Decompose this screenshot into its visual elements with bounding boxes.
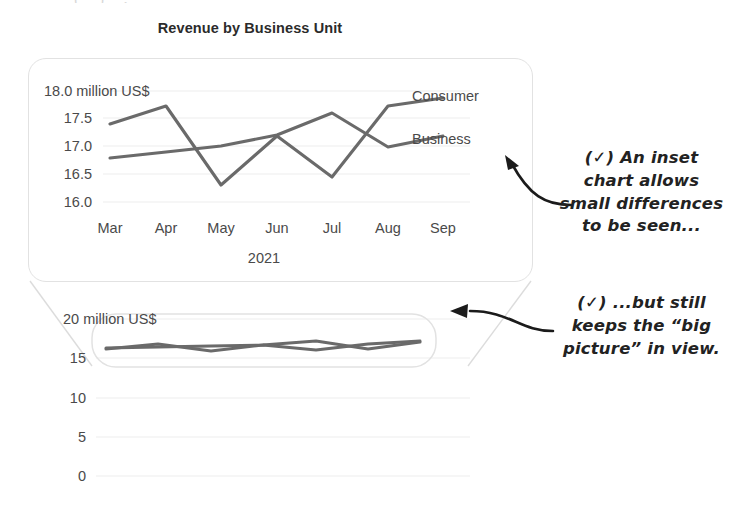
overview-y-unit-text: million US$ [83,311,156,327]
inset-xtick-mar: Mar [87,220,133,236]
overview-ytick-10: 10 [18,390,86,406]
overview-ytick-5: 5 [18,429,86,445]
figure-canvas: · · · ( ) , Revenue by Business Unit [0,0,749,519]
annotation-arrow-2-head [450,304,468,318]
annotation-2-line-1: (✓) ...but still [534,292,749,315]
inset-xtick-apr: Apr [143,220,189,236]
inset-ytick-17-0: 17.0 [20,138,92,154]
annotation-1-line-4: to be seen... [534,215,749,238]
inset-xtick-jun: Jun [254,220,300,236]
overview-ytick-15: 15 [18,350,86,366]
overview-ytick-0: 0 [18,468,86,484]
overview-ytick-20: 20 [63,311,83,327]
inset-series-consumer [110,98,443,185]
annotation-1-line-1: (✓) An inset [534,147,749,170]
annotation-1-line-3: small differences [534,193,749,216]
inset-ytick-16-0: 16.0 [20,194,92,210]
inset-y-unit-text: million US$ [76,83,149,99]
inset-ytick-16-5: 16.5 [20,166,92,182]
inset-x-axis-title: 2021 [204,250,324,266]
inset-xtick-jul: Jul [309,220,355,236]
chart-vector-layer [0,0,749,519]
inset-ytick-17-5: 17.5 [20,110,92,126]
annotation-2-line-2: keeps the “big [534,315,749,338]
annotation-1-line-2: chart allows [534,170,749,193]
annotation-arrow-1-head [505,155,519,170]
inset-y-unit-label: 18.0 million US$ [44,83,150,99]
inset-series-business [110,113,443,158]
inset-ytick-18: 18.0 [44,83,76,99]
annotation-big-picture: (✓) ...but still keeps the “big picture”… [534,292,749,360]
inset-xtick-sep: Sep [420,220,466,236]
series-label-consumer: Consumer [412,88,479,104]
inset-xtick-may: May [198,220,244,236]
series-label-business: Business [412,131,471,147]
annotation-inset-benefit: (✓) An inset chart allows small differen… [534,147,749,238]
inset-xtick-aug: Aug [365,220,411,236]
annotation-2-line-3: picture” in view. [534,338,749,361]
overview-y-unit-label: 20 million US$ [63,311,157,327]
